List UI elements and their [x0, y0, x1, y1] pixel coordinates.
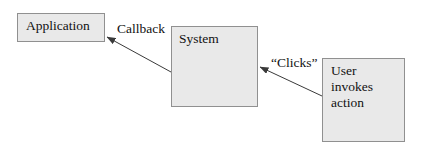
node-application[interactable]: Application [17, 13, 105, 42]
node-user-label: User invokes action [331, 63, 373, 111]
node-system[interactable]: System [171, 26, 258, 107]
edge-label-clicks: “Clicks” [271, 55, 318, 71]
node-user[interactable]: User invokes action [322, 58, 405, 142]
node-system-label: System [179, 31, 219, 47]
diagram-canvas: Application System User invokes action C… [0, 0, 422, 154]
node-application-label: Application [26, 18, 90, 34]
edge-clicks-line [260, 67, 322, 96]
edge-callback-line [107, 37, 171, 72]
edge-label-callback: Callback [117, 21, 165, 37]
